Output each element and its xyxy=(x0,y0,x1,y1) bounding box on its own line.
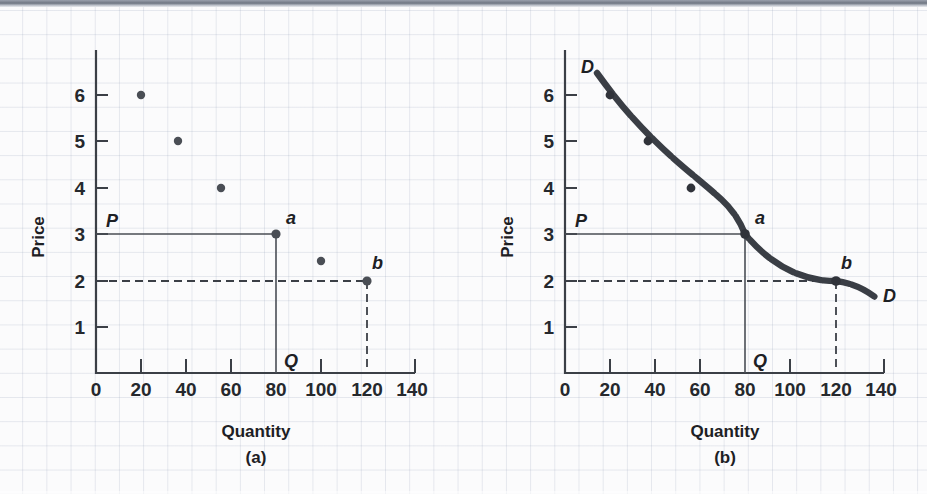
x-tick-label-140-b: 140 xyxy=(865,379,897,400)
y-axis-title-a: Price xyxy=(29,216,48,258)
data-point-40-5 xyxy=(174,137,182,145)
curve-point-a-80-3 xyxy=(740,229,750,239)
point-b-label-a: b xyxy=(372,253,383,273)
x-tick-label-20: 20 xyxy=(130,379,151,400)
panel-b-svg: 1 2 3 4 5 6 0 20 40 60 80 100 120 140 xyxy=(463,0,927,494)
panel-a-scatter: 1 2 3 4 5 6 0 20 40 60 80 100 120 140 xyxy=(0,0,463,494)
curve-point-40-5 xyxy=(644,137,653,146)
y-tick-label-2: 2 xyxy=(74,271,85,292)
data-point-100-2.4 xyxy=(317,257,325,265)
x-tick-label-120: 120 xyxy=(351,379,383,400)
point-a-label-b: a xyxy=(755,208,765,228)
y-tick-label-4-b: 4 xyxy=(543,178,554,199)
curve-label-lower-D: D xyxy=(883,286,896,306)
curve-point-20-6 xyxy=(606,91,615,100)
curve-point-60-4 xyxy=(687,184,696,193)
x-ticks-a xyxy=(141,359,415,373)
y-tick-label-5-b: 5 xyxy=(543,131,554,152)
x-tick-label-40: 40 xyxy=(175,379,196,400)
y-tick-label-5: 5 xyxy=(74,131,85,152)
price-marker-label-a: P xyxy=(106,211,119,231)
y-tick-label-2-b: 2 xyxy=(543,271,554,292)
x-tick-label-100-b: 100 xyxy=(774,379,806,400)
quantity-marker-label-b: Q xyxy=(753,351,767,371)
x-tick-label-20-b: 20 xyxy=(599,379,620,400)
data-point-60-4 xyxy=(217,184,225,192)
x-tick-label-100: 100 xyxy=(305,379,337,400)
quantity-marker-label-a: Q xyxy=(284,351,298,371)
x-axis-title-a: Quantity xyxy=(222,422,291,441)
panel-a-svg: 1 2 3 4 5 6 0 20 40 60 80 100 120 140 xyxy=(0,0,463,494)
y-tick-label-1-b: 1 xyxy=(543,317,554,338)
panel-caption-a: (a) xyxy=(246,448,267,467)
y-tick-label-3: 3 xyxy=(74,224,85,245)
x-tick-label-120-b: 120 xyxy=(820,379,852,400)
x-axis-title-b: Quantity xyxy=(691,422,760,441)
x-tick-label-60-b: 60 xyxy=(689,379,710,400)
data-point-20-6 xyxy=(137,91,145,99)
demand-curve-D xyxy=(597,73,875,297)
x-tick-label-0: 0 xyxy=(91,379,102,400)
y-tick-label-6: 6 xyxy=(74,85,85,106)
x-tick-label-60: 60 xyxy=(220,379,241,400)
x-tick-label-140: 140 xyxy=(396,379,428,400)
data-point-a-80-3 xyxy=(271,229,280,238)
x-tick-label-0-b: 0 xyxy=(560,379,571,400)
panel-b-demand-curve: 1 2 3 4 5 6 0 20 40 60 80 100 120 140 xyxy=(463,0,927,494)
y-tick-label-1: 1 xyxy=(74,317,85,338)
x-tick-label-80: 80 xyxy=(265,379,286,400)
data-point-b-120-2 xyxy=(362,276,371,285)
price-marker-label-b: P xyxy=(575,211,588,231)
y-axis-title-b: Price xyxy=(498,216,517,258)
y-tick-label-4: 4 xyxy=(74,178,85,199)
y-tick-label-3-b: 3 xyxy=(543,224,554,245)
point-b-label-b: b xyxy=(841,253,852,273)
y-tick-label-6-b: 6 xyxy=(543,85,554,106)
panel-caption-b: (b) xyxy=(714,448,736,467)
x-tick-label-80-b: 80 xyxy=(734,379,755,400)
curve-point-b-120-2 xyxy=(831,276,841,286)
point-a-label-a: a xyxy=(286,208,296,228)
x-ticks-b xyxy=(610,359,884,373)
x-tick-label-40-b: 40 xyxy=(644,379,665,400)
curve-label-upper-D: D xyxy=(581,57,594,77)
